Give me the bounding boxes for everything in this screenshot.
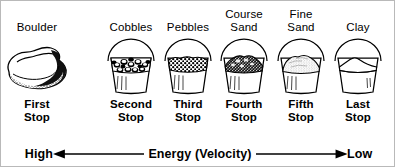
bucket-with-clay-icon <box>322 34 394 97</box>
art-boulder <box>1 34 73 97</box>
energy-axis-inner: High Energy (Velocity) Low <box>1 143 395 165</box>
energy-axis: High Energy (Velocity) Low <box>1 141 395 167</box>
axis-label-energy: Energy (Velocity) <box>144 147 255 161</box>
axis-label-high: High <box>25 147 53 161</box>
sediment-sorting-figure: Boulder <box>0 0 395 167</box>
size-label-boulder: Boulder <box>1 21 73 34</box>
column-grid: Boulder <box>1 1 395 141</box>
arrow-left-icon <box>53 149 144 159</box>
stop-label-clay: Last Stop <box>322 98 394 124</box>
axis-arrow-left <box>53 149 144 159</box>
size-label-clay: Clay <box>322 21 394 34</box>
size-label-wrap-clay: Clay <box>322 3 394 33</box>
stop-label-boulder: First Stop <box>1 98 73 124</box>
size-label-wrap-boulder: Boulder <box>1 3 73 33</box>
art-clay <box>322 34 394 97</box>
arrow-right-icon <box>256 149 347 159</box>
axis-label-low: Low <box>347 147 372 161</box>
boulder-rock-icon <box>1 34 73 97</box>
axis-arrow-right <box>256 149 347 159</box>
